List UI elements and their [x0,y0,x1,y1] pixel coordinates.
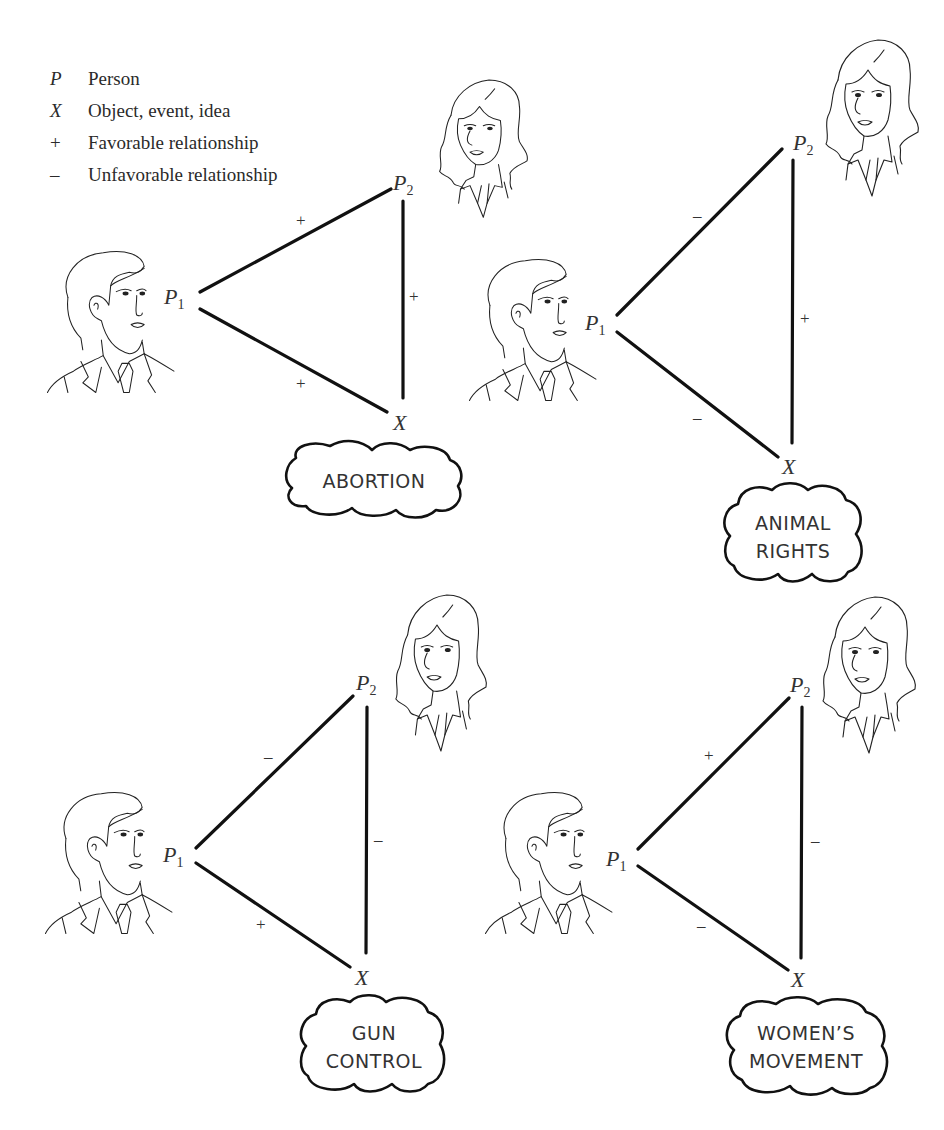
person-2-illustration [823,597,915,753]
edge-p1-x [638,866,788,970]
topic-label-line-2: RIGHTS [756,540,830,562]
node-p2-label: P2 [392,170,413,198]
topic-label: ABORTION [323,470,426,492]
node-x-label: X [781,454,797,479]
edge-p2-x [366,707,367,953]
panel-womens-movement: P1 P2 X + – – WOMEN’S MOVEMENT [485,597,915,1095]
edge-p1-x [196,863,350,967]
person-2-illustration [396,595,487,751]
edge-p1-p2 [196,696,353,848]
sign-p1-p2: + [704,746,714,765]
person-1-illustration [469,260,595,401]
edge-p1-p2 [638,698,789,849]
node-p2-label: P2 [789,672,810,700]
sign-p2-x: – [810,831,820,850]
person-2-illustration [440,80,528,217]
person-1-illustration [485,793,611,934]
topic-label-line-1: ANIMAL [755,512,831,534]
sign-p2-x: – [373,830,383,849]
edge-p1-x [200,309,387,412]
sign-p1-x: + [296,374,306,393]
node-p1-label: P1 [584,310,605,338]
sign-p2-x: + [800,309,810,328]
panel-gun-control: P1 P2 X – + – GUN CONTROL [45,595,486,1092]
topic-label-line-1: WOMEN’S [757,1022,855,1044]
person-2-illustration [826,40,918,196]
topic-label-line-2: CONTROL [326,1050,422,1072]
edge-p1-p2 [200,189,391,292]
node-p2-label: P2 [355,670,376,698]
sign-p1-p2: – [692,206,702,225]
node-p1-label: P1 [163,284,184,312]
person-1-illustration [45,793,171,934]
panel-animal-rights: P1 P2 X – – + ANIMAL RIGHTS [469,40,918,582]
sign-p1-p2: + [296,211,306,230]
node-x-label: X [790,967,806,992]
sign-p2-x: + [409,287,419,306]
topic-label-line-1: GUN [352,1022,396,1044]
sign-p1-x: – [692,408,702,427]
sign-p1-p2: – [263,747,273,766]
node-x-label: X [354,965,370,990]
node-p1-label: P1 [162,842,183,870]
topic-label-line-2: MOVEMENT [749,1050,863,1072]
node-x-label: X [392,410,408,435]
sign-p1-x: – [696,916,706,935]
topic-cloud [727,997,887,1094]
balance-theory-diagram: P1 P2 X + + + ABORTION P1 P2 X – – + ANI… [0,0,944,1130]
panel-abortion: P1 P2 X + + + ABORTION [47,80,527,518]
edge-p2-x [792,160,793,443]
sign-p1-x: + [256,915,266,934]
person-1-illustration [47,252,173,393]
edge-p1-x [617,332,778,457]
node-p1-label: P1 [605,846,626,874]
edge-p1-p2 [617,149,782,315]
node-p2-label: P2 [792,130,813,158]
edge-p2-x [801,707,802,958]
